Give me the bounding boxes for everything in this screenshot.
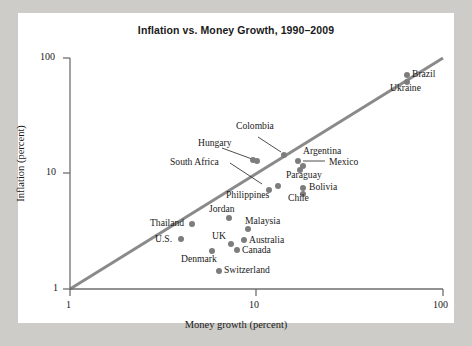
point-label-malaysia: Malaysia [245, 216, 280, 226]
data-point-canada[interactable] [234, 247, 240, 253]
point-label-philippines: Philippines [226, 190, 269, 200]
scatter-chart: Inflation vs. Money Growth, 1990–2009 Mo… [0, 0, 472, 346]
point-label-canada: Canada [242, 245, 271, 255]
x-tick-label-1: 1 [66, 299, 71, 310]
y-tick-label-1: 1 [53, 282, 58, 293]
data-point-thailand[interactable] [189, 221, 195, 227]
point-label-south-africa: South Africa [170, 157, 219, 167]
data-point-us[interactable] [178, 236, 184, 242]
point-label-paraguay: Paraguay [286, 170, 322, 180]
data-point-uk[interactable] [228, 241, 234, 247]
y-axis-label: Inflation (percent) [15, 84, 26, 244]
data-point-brazil[interactable] [404, 72, 410, 78]
point-label-bolivia: Bolivia [309, 182, 337, 192]
data-point-malaysia[interactable] [245, 226, 251, 232]
y-tick-label-10: 10 [46, 166, 56, 177]
point-label-thailand: Thailand [150, 218, 184, 228]
point-label-ukraine: Ukraine [390, 83, 421, 93]
x-tick-label-10: 10 [249, 299, 259, 310]
point-label-brazil: Brazil [412, 69, 435, 79]
point-label-switzerland: Switzerland [224, 265, 270, 275]
y-tick-label-100: 100 [40, 51, 55, 62]
data-point-jordan[interactable] [226, 215, 232, 221]
data-point-australia[interactable] [241, 237, 247, 243]
point-label-chile: Chile [288, 193, 309, 203]
x-tick-label-100: 100 [433, 299, 448, 310]
point-label-us: U.S. [155, 234, 172, 244]
data-point-philippines[interactable] [275, 183, 281, 189]
point-label-uk: UK [212, 231, 226, 241]
data-point-switzerland[interactable] [216, 268, 222, 274]
point-label-colombia: Colombia [236, 121, 274, 131]
leader-line-colombia [258, 137, 281, 152]
x-axis-label: Money growth (percent) [0, 319, 472, 330]
chart-canvas [0, 0, 472, 346]
leader-line-hungary [222, 148, 252, 159]
point-label-argentina: Argentina [303, 146, 341, 156]
point-label-mexico: Mexico [329, 157, 358, 167]
point-label-jordan: Jordan [209, 204, 235, 214]
point-label-denmark: Denmark [181, 254, 217, 264]
data-point-colombia[interactable] [281, 152, 287, 158]
data-point-south-africa[interactable] [254, 158, 260, 164]
point-label-hungary: Hungary [198, 138, 232, 148]
